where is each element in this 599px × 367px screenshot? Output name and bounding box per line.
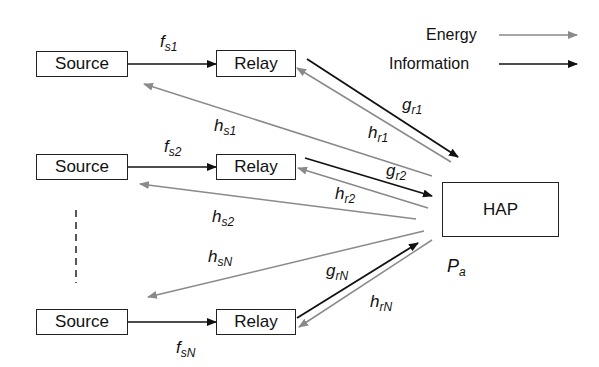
source-node-1: Source	[36, 51, 128, 77]
label-gr2: gr2	[386, 162, 406, 182]
label-fs2: fs2	[164, 138, 181, 158]
hap-node: HAP	[442, 182, 559, 237]
label-fsN: fsN	[176, 339, 195, 359]
label-hr2: hr2	[335, 185, 355, 205]
source-node-2: Source	[36, 154, 128, 180]
label-grN: grN	[326, 262, 348, 282]
label-pa: Pa	[447, 257, 466, 278]
link-grN	[297, 243, 418, 318]
label-gr1: gr1	[402, 96, 422, 116]
label-hr1: hr1	[368, 124, 388, 144]
link-hr2	[298, 168, 428, 208]
label-hrN: hrN	[370, 293, 392, 313]
legend-energy-label: Energy	[426, 27, 477, 43]
label-hs2: hs2	[212, 208, 234, 228]
relay-node-1: Relay	[216, 50, 296, 77]
link-hrN	[299, 240, 432, 327]
label-fs1: fs1	[160, 33, 177, 53]
link-hr1	[297, 68, 451, 162]
relay-node-2: Relay	[216, 154, 296, 180]
label-hsN: hsN	[208, 248, 232, 268]
relay-node-n: Relay	[216, 309, 296, 335]
source-node-n: Source	[36, 309, 128, 335]
legend-information-label: Information	[389, 56, 469, 72]
link-hs2	[140, 184, 416, 219]
diagram-canvas: Energy Information Source Relay Source R…	[0, 0, 599, 367]
label-hs1: hs1	[214, 117, 236, 137]
